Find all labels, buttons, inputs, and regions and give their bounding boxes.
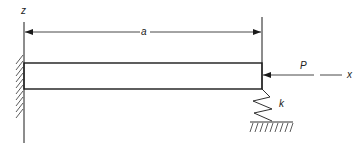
load-label: P: [300, 60, 307, 71]
spring-icon: [253, 89, 272, 121]
beam-diagram: z a P x k: [0, 0, 360, 152]
x-axis-label: x: [346, 69, 353, 80]
spring-label: k: [279, 98, 285, 109]
z-axis-label: z: [20, 5, 26, 16]
wall-hatching: [16, 55, 23, 118]
length-dimension: a: [25, 26, 261, 37]
ground: [250, 122, 293, 132]
fixed-wall: [16, 22, 24, 143]
length-label: a: [141, 26, 147, 37]
x-axis: x: [320, 69, 353, 80]
spring-support: k: [253, 89, 285, 121]
axial-load: P: [263, 60, 314, 75]
beam: [24, 63, 262, 89]
